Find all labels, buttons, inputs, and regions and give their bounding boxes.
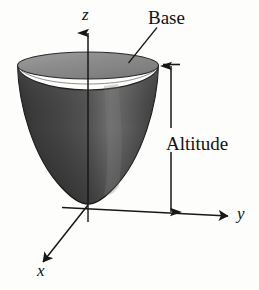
y-axis — [62, 208, 228, 217]
y-axis-label: y — [237, 205, 245, 222]
x-axis-label: x — [37, 262, 45, 279]
paraboloid-figure: Base Altitude z y x — [0, 0, 259, 290]
base-label: Base — [148, 8, 185, 27]
z-axis-label: z — [82, 6, 89, 23]
altitude-label: Altitude — [166, 134, 228, 153]
x-axis — [43, 205, 88, 262]
